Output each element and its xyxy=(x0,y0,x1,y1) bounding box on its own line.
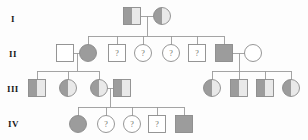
pedigree-canvas: ??????? IIIIIIIV xyxy=(0,0,308,140)
individual-iii-3[interactable] xyxy=(91,80,108,97)
unknown-status-marker: ? xyxy=(130,120,134,129)
individual-symbols: ??????? xyxy=(29,8,300,133)
individual-iii-7[interactable] xyxy=(257,80,274,97)
individual-iii-2[interactable] xyxy=(60,80,77,97)
generation-label-ii: II xyxy=(9,49,17,59)
individual-ii-3[interactable]: ? xyxy=(109,45,126,62)
unknown-status-marker: ? xyxy=(155,120,159,129)
individual-ii-8[interactable] xyxy=(245,45,262,62)
individual-iv-2[interactable]: ? xyxy=(98,116,115,133)
unknown-status-marker: ? xyxy=(115,49,119,58)
individual-ii-2[interactable] xyxy=(80,45,97,62)
individual-iv-1[interactable] xyxy=(70,116,87,133)
unknown-status-marker: ? xyxy=(195,49,199,58)
generation-labels: IIIIIIIV xyxy=(7,14,19,129)
individual-iv-4[interactable]: ? xyxy=(149,116,166,133)
unknown-status-marker: ? xyxy=(169,49,173,58)
generation-label-i: I xyxy=(11,14,15,24)
individual-ii-7[interactable] xyxy=(216,45,233,62)
individual-ii-5[interactable]: ? xyxy=(163,45,180,62)
individual-ii-6[interactable]: ? xyxy=(189,45,206,62)
unknown-status-marker: ? xyxy=(141,49,145,58)
generation-label-iii: III xyxy=(7,84,19,94)
individual-iv-5[interactable] xyxy=(176,116,193,133)
individual-iii-1[interactable] xyxy=(29,80,46,97)
individual-ii-1[interactable] xyxy=(57,45,74,62)
unknown-status-marker: ? xyxy=(104,120,108,129)
individual-iii-6[interactable] xyxy=(231,80,248,97)
individual-iii-8[interactable] xyxy=(283,80,300,97)
generation-label-iv: IV xyxy=(8,119,19,129)
individual-iii-4[interactable] xyxy=(114,80,131,97)
individual-i-1[interactable] xyxy=(124,8,141,25)
individual-iii-5[interactable] xyxy=(204,80,221,97)
individual-iv-3[interactable]: ? xyxy=(124,116,141,133)
individual-i-2[interactable] xyxy=(154,8,171,25)
individual-ii-4[interactable]: ? xyxy=(135,45,152,62)
connector-lines xyxy=(37,16,291,116)
pedigree-chart: ??????? IIIIIIIV xyxy=(0,0,308,140)
